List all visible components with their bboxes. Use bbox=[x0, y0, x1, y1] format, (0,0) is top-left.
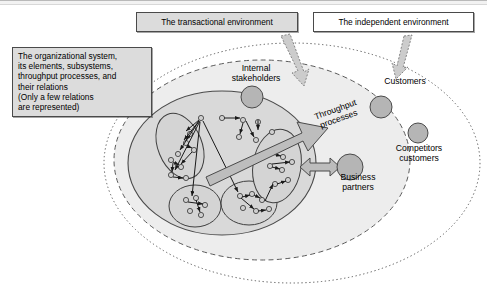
organizational-system-callout: The organizational system, its elements,… bbox=[12, 47, 152, 117]
element-node bbox=[269, 129, 274, 134]
element-node bbox=[279, 167, 284, 172]
element-node bbox=[237, 193, 242, 198]
element-node bbox=[280, 154, 285, 159]
element-node bbox=[219, 115, 224, 120]
transactional-environment-box: The transactional environment bbox=[136, 12, 298, 32]
diagram-canvas: Internal stakeholders Customers Competit… bbox=[0, 0, 487, 297]
element-node bbox=[259, 197, 264, 202]
element-node bbox=[253, 137, 258, 142]
element-node bbox=[253, 208, 258, 213]
element-node bbox=[187, 208, 192, 213]
element-node bbox=[285, 177, 290, 182]
subsystem-ellipse-2 bbox=[169, 185, 221, 227]
element-node bbox=[240, 117, 245, 122]
internal-stakeholders-node bbox=[241, 86, 263, 108]
customers-label: Customers bbox=[372, 76, 438, 86]
element-node bbox=[178, 164, 183, 169]
competitors-customers-label: Competitors customers bbox=[383, 143, 455, 163]
element-node bbox=[193, 195, 198, 200]
element-node bbox=[175, 151, 180, 156]
element-node bbox=[249, 191, 254, 196]
element-node bbox=[272, 181, 277, 186]
element-node bbox=[191, 147, 196, 152]
element-node bbox=[289, 159, 294, 164]
element-node bbox=[240, 205, 245, 210]
element-node bbox=[198, 212, 203, 217]
element-node bbox=[267, 163, 272, 168]
element-node bbox=[198, 115, 203, 120]
element-node bbox=[168, 157, 173, 162]
element-node bbox=[266, 206, 271, 211]
element-node bbox=[168, 172, 173, 177]
business-partners-label: Business partners bbox=[322, 172, 394, 192]
element-node bbox=[236, 134, 241, 139]
element-node bbox=[183, 197, 188, 202]
element-node bbox=[202, 202, 207, 207]
internal-stakeholders-label: Internal stakeholders bbox=[213, 63, 299, 83]
independent-environment-box: The independent environment bbox=[313, 12, 474, 32]
competitors-customers-node bbox=[408, 123, 428, 143]
element-node bbox=[183, 175, 188, 180]
